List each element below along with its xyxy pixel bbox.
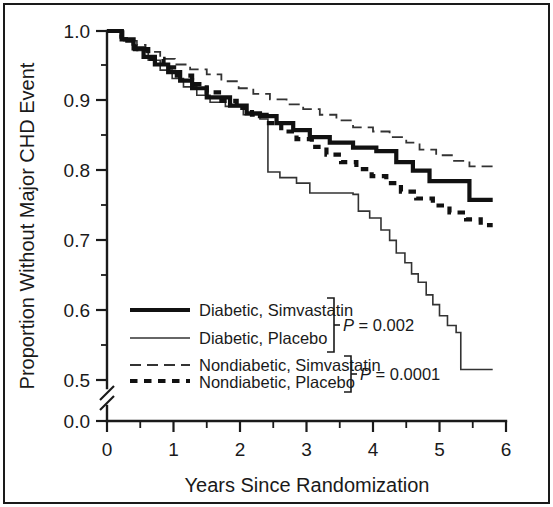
pvalue-top-label: P = 0.002 — [343, 316, 414, 334]
pvalue-symbol: P — [360, 365, 371, 383]
y-major-ticks — [96, 31, 107, 421]
figure-panel: 1.0 0.9 0.8 0.7 0.6 0.5 0.0 0 1 2 3 4 5 … — [0, 0, 553, 507]
pvalue-value: = 0.0001 — [371, 365, 440, 383]
x-tick-label: 6 — [501, 439, 512, 460]
legend: Diabetic, Simvastatin Diabetic, Placebo … — [130, 301, 381, 391]
x-tick-label: 0 — [102, 439, 113, 460]
y-tick-label: 1.0 — [64, 21, 90, 42]
series-line-diabetic-simvastatin — [107, 31, 493, 200]
y-axis — [100, 31, 114, 421]
pvalue-symbol: P — [343, 316, 354, 334]
x-major-ticks — [107, 421, 506, 432]
y-tick-label: 0.0 — [64, 411, 90, 432]
series-line-nondiabetic-simvastatin — [107, 31, 493, 166]
x-tick-labels: 0 1 2 3 4 5 6 — [102, 439, 512, 460]
pvalue-value: = 0.002 — [354, 316, 414, 334]
x-axis-title: Years Since Randomization — [185, 474, 430, 496]
x-tick-label: 5 — [434, 439, 445, 460]
legend-label-nondiabetic-simvastatin: Nondiabetic, Simvastatin — [199, 356, 381, 374]
y-tick-label: 0.5 — [64, 370, 90, 391]
legend-label-nondiabetic-placebo: Nondiabetic, Placebo — [199, 373, 355, 391]
pvalue-bottom-label: P = 0.0001 — [360, 365, 440, 383]
x-tick-label: 1 — [168, 439, 179, 460]
y-tick-label: 0.6 — [64, 300, 90, 321]
x-tick-label: 4 — [368, 439, 379, 460]
y-tick-label: 0.8 — [64, 160, 90, 181]
y-tick-labels: 1.0 0.9 0.8 0.7 0.6 0.5 0.0 — [64, 21, 90, 432]
y-axis-title: Proportion Without Major CHD Event — [16, 62, 38, 389]
x-tick-label: 3 — [301, 439, 312, 460]
y-tick-label: 0.9 — [64, 90, 90, 111]
legend-label-diabetic-simvastatin: Diabetic, Simvastatin — [199, 301, 353, 319]
x-tick-label: 2 — [235, 439, 246, 460]
y-tick-label: 0.7 — [64, 230, 90, 251]
kaplan-meier-chart: 1.0 0.9 0.8 0.7 0.6 0.5 0.0 0 1 2 3 4 5 … — [0, 0, 553, 507]
legend-label-diabetic-placebo: Diabetic, Placebo — [199, 329, 327, 347]
